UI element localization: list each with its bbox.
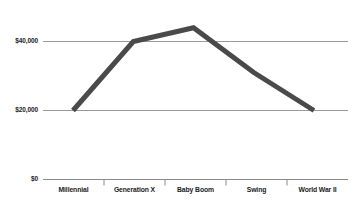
- x-axis-label-generation-x: Generation X: [104, 187, 165, 194]
- x-axis-label-millennial: Millennial: [43, 187, 104, 194]
- line-chart: $40,000 $20,000 $0 Millennial Generation…: [0, 0, 362, 213]
- y-axis-label-0: $0: [0, 176, 38, 183]
- y-axis-label-20000: $20,000: [0, 107, 38, 114]
- chart-plot-area: [0, 0, 362, 213]
- y-axis-label-40000: $40,000: [0, 38, 38, 45]
- data-series-line: [73, 28, 314, 111]
- x-axis-label-world-war-ii: World War II: [287, 187, 348, 194]
- x-axis-label-swing: Swing: [226, 187, 287, 194]
- x-axis-label-baby-boom: Baby Boom: [165, 187, 226, 194]
